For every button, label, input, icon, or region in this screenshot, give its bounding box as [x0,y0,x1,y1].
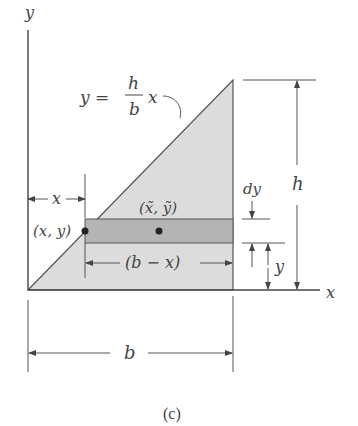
equation-rhs: x [148,87,158,107]
point-xy-dot [82,228,89,235]
x-dim-label: x [52,189,61,208]
triangle-diagram: y x y = h b x x (x, y) (x̃, ỹ) (b − x) d… [0,0,358,426]
equation-leader [163,96,181,118]
strip-width-label: (b − x) [125,253,180,272]
x-axis-label: x [326,283,335,302]
centroid-label: (x̃, ỹ) [139,199,177,217]
y-axis-label: y [24,3,35,22]
equation-lhs: y = [79,87,109,107]
dy-label: dy [243,180,262,198]
figure-caption: (c) [163,405,181,423]
equation-numerator: h [128,73,139,93]
h-label: h [292,173,304,194]
b-label: b [124,342,136,363]
centroid-dot [156,228,163,235]
y-dim-label: y [274,257,285,276]
point-xy-label: (x, y) [33,222,71,240]
equation-denominator: b [129,99,140,119]
